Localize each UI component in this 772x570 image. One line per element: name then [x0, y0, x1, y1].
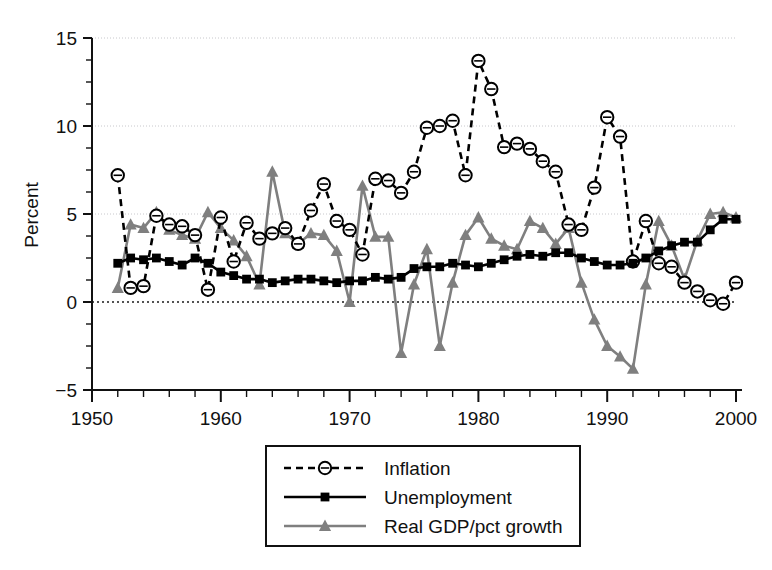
data-point	[152, 254, 161, 263]
y-tick-label: 0	[66, 292, 77, 313]
x-tick-label: 1970	[328, 408, 370, 429]
data-point	[641, 254, 650, 263]
data-point	[294, 275, 303, 284]
chart-figure: −5051015195019601970198019902000 Percent…	[0, 0, 772, 570]
data-point	[268, 278, 277, 287]
chart-legend: InflationUnemploymentReal GDP/pct growth	[266, 446, 580, 546]
data-point	[410, 264, 419, 273]
x-tick-label: 1980	[457, 408, 499, 429]
data-point	[500, 255, 509, 264]
data-point	[474, 262, 483, 271]
data-point	[229, 271, 238, 280]
x-tick-label: 1950	[71, 408, 113, 429]
data-point	[629, 259, 638, 268]
data-point	[371, 273, 380, 282]
data-point	[461, 261, 470, 270]
data-point	[345, 276, 354, 285]
data-point	[384, 275, 393, 284]
x-tick-label: 2000	[715, 408, 757, 429]
data-point	[281, 276, 290, 285]
x-tick-label: 1960	[200, 408, 242, 429]
data-point	[538, 252, 547, 261]
data-point	[564, 248, 573, 257]
economic-indicators-line-chart: −5051015195019601970198019902000 Percent…	[0, 0, 772, 570]
y-tick-label: 5	[66, 204, 77, 225]
data-point	[332, 278, 341, 287]
legend-item-label: Real GDP/pct growth	[384, 516, 562, 537]
data-point	[680, 238, 689, 247]
data-point	[654, 247, 663, 256]
data-point	[165, 257, 174, 266]
data-point	[603, 261, 612, 270]
data-point	[358, 276, 367, 285]
data-point	[319, 276, 328, 285]
data-point	[719, 215, 728, 224]
data-point	[590, 257, 599, 266]
data-point	[204, 259, 213, 268]
y-tick-label: −5	[55, 380, 77, 401]
data-point	[732, 215, 741, 224]
data-point	[616, 261, 625, 270]
data-point	[693, 238, 702, 247]
legend-marker	[321, 493, 330, 502]
data-point	[577, 254, 586, 263]
data-point	[435, 262, 444, 271]
y-axis-title: Percent	[21, 182, 42, 248]
data-point	[113, 259, 122, 268]
data-point	[487, 259, 496, 268]
y-tick-label: 10	[56, 116, 77, 137]
data-point	[126, 254, 135, 263]
data-point	[422, 262, 431, 271]
legend-item-label: Unemployment	[384, 487, 512, 508]
data-point	[242, 275, 251, 284]
data-point	[526, 250, 535, 259]
data-point	[139, 255, 148, 264]
data-point	[706, 225, 715, 234]
data-point	[255, 275, 264, 284]
data-point	[191, 254, 200, 263]
data-point	[178, 261, 187, 270]
data-point	[307, 275, 316, 284]
data-point	[513, 252, 522, 261]
data-point	[667, 241, 676, 250]
data-point	[397, 273, 406, 282]
data-point	[551, 248, 560, 257]
data-point	[216, 268, 225, 277]
data-point	[448, 259, 457, 268]
x-tick-label: 1990	[586, 408, 628, 429]
legend-item-label: Inflation	[384, 458, 451, 479]
y-tick-label: 15	[56, 28, 77, 49]
